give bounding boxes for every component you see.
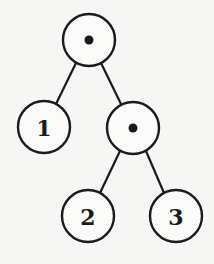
node-leaf3-label: 3 <box>168 204 183 230</box>
internal-node-dot-icon <box>85 36 94 45</box>
node-leaf2-label: 2 <box>80 204 95 230</box>
node-leaf2: 2 <box>62 190 114 242</box>
node-inner <box>107 102 159 154</box>
node-root <box>63 14 115 66</box>
node-leaf1-label: 1 <box>36 115 51 141</box>
edge-root-leaf1 <box>56 63 76 104</box>
edge-root-inner <box>101 63 121 104</box>
internal-node-dot-icon <box>129 124 138 133</box>
node-leaf1: 1 <box>18 101 70 153</box>
edge-inner-leaf2 <box>100 151 120 193</box>
tree-diagram: 1 2 3 <box>0 0 214 264</box>
edge-inner-leaf3 <box>146 151 164 193</box>
node-leaf3: 3 <box>150 190 202 242</box>
